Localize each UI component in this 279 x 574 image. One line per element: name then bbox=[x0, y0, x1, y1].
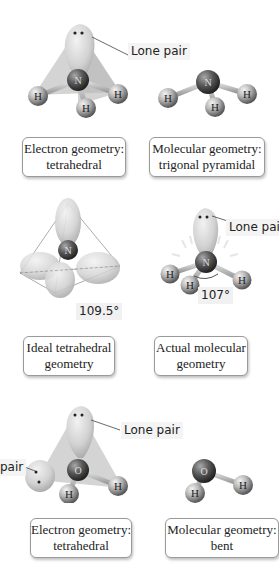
water-molecular-geometry-model: O H H bbox=[175, 455, 265, 510]
ideal-tetrahedral-model: N bbox=[10, 198, 125, 308]
caption-line: trigonal pyramidal bbox=[150, 157, 264, 173]
ammonia-molecular-geometry-model: N H H H bbox=[150, 60, 270, 130]
caption-line: Molecular geometry: bbox=[166, 522, 278, 538]
svg-text:H: H bbox=[114, 88, 122, 100]
svg-text:N: N bbox=[202, 257, 209, 268]
svg-text:O: O bbox=[74, 465, 81, 476]
actual-molecular-model: N H H H bbox=[150, 200, 260, 300]
svg-text:H: H bbox=[166, 268, 174, 280]
svg-text:H: H bbox=[186, 279, 194, 291]
caption-molecular-geometry-bent: Molecular geometry: bent bbox=[165, 518, 279, 558]
svg-text:H: H bbox=[114, 480, 122, 492]
caption-actual-molecular-geometry: Actual molecular geometry bbox=[154, 336, 248, 376]
svg-text:H: H bbox=[239, 479, 247, 491]
caption-line: Electron geometry: bbox=[23, 141, 125, 157]
caption-line: tetrahedral bbox=[23, 157, 125, 173]
caption-line: bent bbox=[166, 538, 278, 554]
caption-ideal-tetrahedral-geometry: Ideal tetrahedral geometry bbox=[23, 336, 115, 376]
lone-pair-label: Lone pair bbox=[128, 43, 190, 60]
svg-text:H: H bbox=[65, 488, 73, 500]
caption-electron-geometry-tetrahedral-water: Electron geometry: tetrahedral bbox=[30, 518, 132, 558]
water-electron-geometry-model: O H H bbox=[15, 398, 130, 503]
svg-text:N: N bbox=[204, 77, 211, 88]
svg-text:N: N bbox=[64, 245, 71, 256]
svg-text:H: H bbox=[243, 88, 251, 100]
svg-text:O: O bbox=[200, 466, 207, 477]
caption-line: Molecular geometry: bbox=[150, 141, 264, 157]
caption-line: geometry bbox=[155, 356, 247, 372]
bond-angle-label: 109.5° bbox=[76, 303, 122, 320]
svg-text:H: H bbox=[34, 90, 42, 102]
svg-text:H: H bbox=[191, 487, 199, 499]
ammonia-electron-geometry-model: N H H H bbox=[20, 10, 130, 120]
lone-pair-label-left: pair bbox=[0, 459, 26, 476]
svg-text:H: H bbox=[238, 274, 246, 286]
caption-line: Ideal tetrahedral bbox=[24, 340, 114, 356]
svg-text:H: H bbox=[82, 102, 90, 114]
svg-text:H: H bbox=[211, 101, 219, 113]
caption-line: tetrahedral bbox=[31, 538, 131, 554]
lone-pair-label: Lone pair bbox=[121, 422, 183, 439]
caption-line: Electron geometry: bbox=[31, 522, 131, 538]
svg-text:N: N bbox=[74, 75, 81, 86]
lone-pair-label: Lone pair bbox=[226, 219, 279, 236]
caption-line: Actual molecular bbox=[155, 340, 247, 356]
bond-angle-label: 107° bbox=[198, 287, 233, 304]
caption-electron-geometry-tetrahedral: Electron geometry: tetrahedral bbox=[22, 137, 126, 177]
caption-line: geometry bbox=[24, 356, 114, 372]
svg-text:H: H bbox=[164, 92, 172, 104]
caption-molecular-geometry-trigonal-pyramidal: Molecular geometry: trigonal pyramidal bbox=[149, 137, 265, 177]
